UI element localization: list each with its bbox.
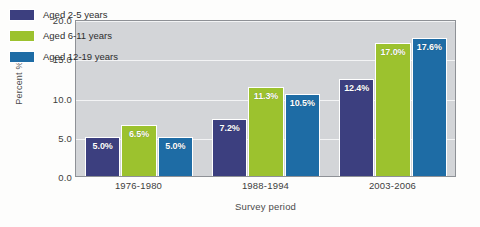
bar-value-label: 6.5% bbox=[122, 129, 155, 139]
y-tick-1: 5.0 bbox=[40, 132, 72, 143]
legend-swatch-icon bbox=[9, 51, 35, 63]
legend: Aged 2-5 yearsAged 6-11 yearsAged 12-19 … bbox=[9, 5, 149, 68]
y-tick-0: 0.0 bbox=[40, 172, 72, 183]
legend-label: Aged 12-19 years bbox=[43, 51, 118, 62]
legend-label: Aged 2-5 years bbox=[43, 9, 107, 20]
bar-value-label: 12.4% bbox=[340, 83, 373, 93]
bar-value-label: 7.2% bbox=[213, 123, 246, 133]
x-axis-label: Survey period bbox=[75, 201, 456, 212]
bar-chart: Percent % 0.05.010.015.020.0 5.0%6.5%5.0… bbox=[0, 0, 480, 227]
legend-item-0: Aged 2-5 years bbox=[9, 5, 149, 24]
x-tick-2: 2003-2006 bbox=[338, 180, 448, 191]
x-tick-1: 1988-1994 bbox=[211, 180, 321, 191]
bar-value-label: 5.0% bbox=[159, 141, 192, 151]
legend-swatch-icon bbox=[9, 30, 35, 42]
bar-value-label: 10.5% bbox=[286, 98, 319, 108]
legend-label: Aged 6-11 years bbox=[43, 30, 112, 41]
bar-value-label: 11.3% bbox=[249, 91, 282, 101]
legend-item-1: Aged 6-11 years bbox=[9, 26, 149, 45]
bar: 5.0% bbox=[158, 137, 193, 176]
x-tick-0: 1976-1980 bbox=[84, 180, 194, 191]
bar: 12.4% bbox=[339, 79, 374, 176]
bar: 17.6% bbox=[412, 38, 447, 176]
bar: 5.0% bbox=[85, 137, 120, 176]
bar: 17.0% bbox=[375, 43, 410, 176]
bar: 7.2% bbox=[212, 119, 247, 176]
bar-value-label: 5.0% bbox=[86, 141, 119, 151]
bar-value-label: 17.6% bbox=[413, 42, 446, 52]
bar: 6.5% bbox=[121, 125, 156, 176]
bar: 11.3% bbox=[248, 87, 283, 176]
x-axis-tick-labels: 1976-19801988-19942003-2006 bbox=[75, 180, 456, 194]
bar-value-label: 17.0% bbox=[376, 47, 409, 57]
legend-swatch-icon bbox=[9, 9, 35, 21]
legend-item-2: Aged 12-19 years bbox=[9, 47, 149, 66]
bar: 10.5% bbox=[285, 94, 320, 176]
y-tick-2: 10.0 bbox=[40, 93, 72, 104]
